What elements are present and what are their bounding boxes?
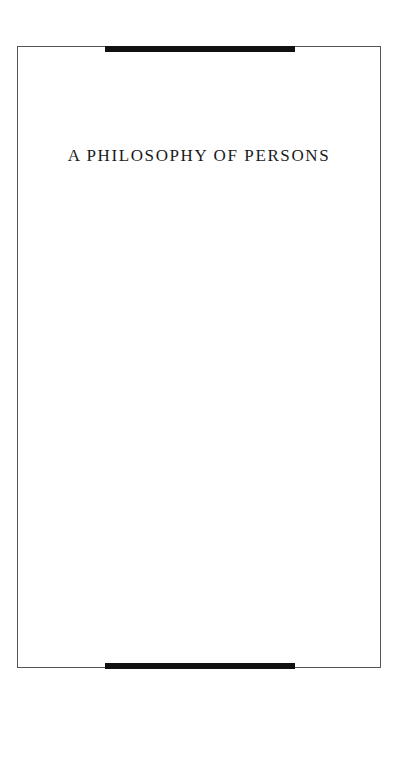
- book-title: A PHILOSOPHY OF PERSONS: [17, 146, 381, 166]
- bottom-rule-bar: [105, 663, 295, 669]
- top-rule-bar: [105, 46, 295, 52]
- page-frame: [17, 46, 381, 668]
